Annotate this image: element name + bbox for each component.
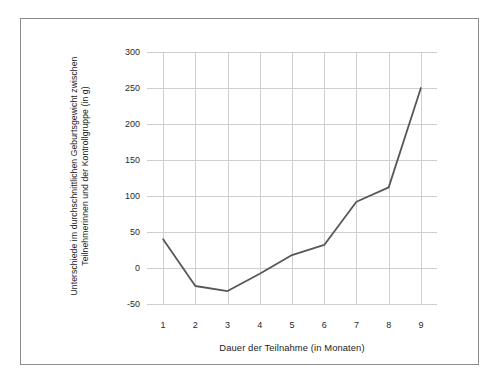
x-axis-label: Dauer der Teilnahme (in Monaten) bbox=[147, 342, 437, 353]
y-tick-label: 200 bbox=[125, 119, 140, 129]
x-tick-label: 1 bbox=[161, 320, 166, 330]
y-tick-label: 50 bbox=[130, 227, 140, 237]
y-tick-label: -50 bbox=[127, 299, 140, 309]
plot-area: 300250200150100500-50 123456789 Dauer de… bbox=[147, 52, 437, 304]
y-tick-label: 100 bbox=[125, 191, 140, 201]
x-tick-label: 9 bbox=[418, 320, 423, 330]
y-axis-label: Unterschiede im durchschnittlichen Gebur… bbox=[62, 26, 98, 326]
x-tick-label: 5 bbox=[289, 320, 294, 330]
y-tick-label: 250 bbox=[125, 83, 140, 93]
x-tick-label: 7 bbox=[354, 320, 359, 330]
y-axis-label-line-1: Unterschiede im durchschnittlichen Gebur… bbox=[69, 57, 80, 296]
x-tick-label: 4 bbox=[257, 320, 262, 330]
x-tick-label: 8 bbox=[386, 320, 391, 330]
y-axis-label-line-2: Teilnehmerinnen und der Kontrollgruppe (… bbox=[80, 86, 91, 265]
x-tick-label: 6 bbox=[322, 320, 327, 330]
data-series-line bbox=[147, 52, 437, 304]
gridline-horizontal bbox=[147, 304, 437, 305]
y-axis-label-text: Unterschiede im durchschnittlichen Gebur… bbox=[62, 26, 98, 326]
series-polyline bbox=[163, 88, 421, 291]
x-tick-label: 2 bbox=[193, 320, 198, 330]
y-tick-label: 0 bbox=[135, 263, 140, 273]
y-tick-label: 300 bbox=[125, 47, 140, 57]
y-tick-label: 150 bbox=[125, 155, 140, 165]
x-tick-label: 3 bbox=[225, 320, 230, 330]
chart-figure: Unterschiede im durchschnittlichen Gebur… bbox=[0, 0, 499, 383]
